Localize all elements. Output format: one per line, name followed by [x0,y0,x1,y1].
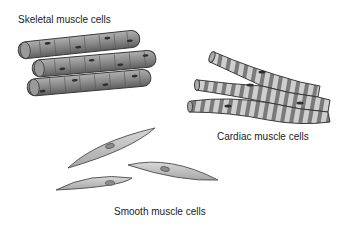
cardiac-muscle-cells [188,51,331,124]
skeletal-muscle-fibers [17,30,156,97]
muscle-cells-illustration [0,0,345,227]
smooth-muscle-cells [56,128,218,190]
skeletal-label: Skeletal muscle cells [18,14,111,25]
cardiac-label: Cardiac muscle cells [217,131,309,142]
smooth-label: Smooth muscle cells [114,206,206,217]
